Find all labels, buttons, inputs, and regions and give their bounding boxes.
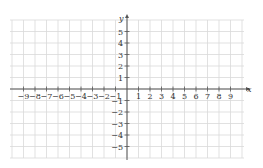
x-tick-label: 8 [216, 92, 221, 101]
coordinate-plane: −9−8−7−6−5−4−3−2−1123456789−5−4−3−2−1123… [0, 0, 263, 168]
y-tick-label: 1 [118, 74, 123, 83]
x-tick-label: 4 [170, 92, 175, 101]
x-tick-label: −4 [75, 92, 87, 101]
y-arrow-icon [125, 14, 129, 18]
x-tick-label: 1 [136, 92, 141, 101]
y-tick-label: −1 [111, 97, 123, 106]
x-tick-label: −9 [18, 92, 30, 101]
axes [10, 14, 250, 160]
y-tick-label: −4 [111, 131, 123, 140]
y-tick-label: −2 [111, 108, 123, 117]
y-axis-label: y [118, 14, 124, 23]
x-tick-label: 2 [147, 92, 152, 101]
y-tick-label: 2 [118, 62, 123, 71]
x-tick-label: 3 [159, 92, 164, 101]
x-tick-label: −2 [98, 92, 110, 101]
x-tick-label: 9 [228, 92, 233, 101]
x-tick-label: −7 [41, 92, 53, 101]
x-tick-label: −6 [52, 92, 64, 101]
y-tick-label: −5 [111, 143, 123, 152]
y-tick-label: 5 [118, 28, 123, 37]
y-tick-label: 4 [118, 39, 123, 48]
x-tick-label: 7 [205, 92, 210, 101]
x-tick-label: −5 [64, 92, 76, 101]
x-tick-label: −3 [87, 92, 99, 101]
y-tick-label: −3 [111, 120, 123, 129]
x-axis-label: x [247, 85, 252, 94]
x-tick-label: 5 [182, 92, 187, 101]
y-tick-label: 3 [118, 51, 123, 60]
x-tick-label: 6 [193, 92, 198, 101]
x-tick-label: −8 [29, 92, 41, 101]
